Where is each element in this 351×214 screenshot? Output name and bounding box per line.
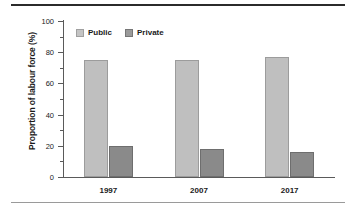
plot-area xyxy=(63,21,335,177)
x-tick-label-2007: 2007 xyxy=(190,186,208,195)
y-tick-label: 80 xyxy=(8,48,54,57)
legend-label-public: Public xyxy=(88,28,112,37)
x-tick-label-2017: 2017 xyxy=(281,186,299,195)
y-tick-label: 60 xyxy=(8,79,54,88)
bar-public-2017 xyxy=(265,57,289,177)
y-tick-label: 40 xyxy=(8,110,54,119)
x-tick-label-1997: 1997 xyxy=(99,186,117,195)
x-axis-line xyxy=(63,177,335,178)
figure-bottom-rule xyxy=(11,202,345,203)
y-tick-label: 0 xyxy=(8,173,54,182)
bar-private-2017 xyxy=(290,152,314,177)
bar-private-1997 xyxy=(109,146,133,177)
legend-label-private: Private xyxy=(137,28,164,37)
legend-swatch-private-icon xyxy=(125,29,133,37)
legend-entry-private: Private xyxy=(125,28,164,37)
y-tick xyxy=(58,177,63,178)
y-tick-label: 20 xyxy=(8,141,54,150)
y-tick-label: 100 xyxy=(8,17,54,26)
bar-public-1997 xyxy=(84,60,108,177)
legend-swatch-public-icon xyxy=(76,29,84,37)
bar-public-2007 xyxy=(175,60,199,177)
figure-top-rule xyxy=(11,4,345,6)
chart-legend: Public Private xyxy=(76,28,164,37)
bar-chart-figure: Proportion of labour force (%) 020406080… xyxy=(0,0,351,214)
y-axis-title: Proportion of labour force (%) xyxy=(27,6,37,176)
legend-entry-public: Public xyxy=(76,28,112,37)
bar-private-2007 xyxy=(200,149,224,177)
